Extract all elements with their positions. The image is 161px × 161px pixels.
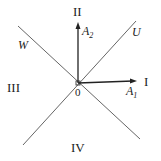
label-quadrant-i: I — [144, 74, 148, 89]
label-a1: A1 — [125, 84, 137, 100]
label-w: W — [18, 38, 29, 52]
label-u: U — [132, 25, 142, 39]
arrowhead-a2-icon — [76, 22, 81, 29]
label-quadrant-iii: III — [7, 80, 20, 95]
label-a2: A2 — [81, 24, 93, 40]
label-quadrant-iv: IV — [71, 140, 85, 155]
label-quadrant-ii: II — [73, 4, 82, 19]
quadrant-diagram: II I III IV 0 W U A2 A1 — [0, 0, 161, 161]
vector-a1 — [78, 81, 133, 83]
arrowhead-a1-icon — [130, 79, 137, 84]
label-origin: 0 — [75, 86, 81, 98]
